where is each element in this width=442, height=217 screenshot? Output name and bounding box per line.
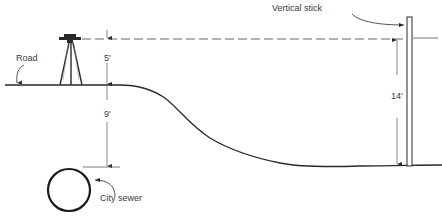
road-arrow-icon [17, 65, 24, 83]
svg-text:City sewer: City sewer [100, 193, 142, 203]
svg-text:14': 14' [391, 91, 403, 101]
road-label: Road [16, 53, 38, 83]
svg-text:5': 5' [104, 53, 111, 63]
survey-diagram: Road 5' 9' City sewer Vertical stick [0, 0, 442, 217]
sewer-depth-dimension: 9' [83, 86, 120, 167]
svg-text:Road: Road [16, 53, 38, 63]
level-instrument-icon [59, 34, 82, 85]
vertical-stick-label: Vertical stick [272, 3, 404, 25]
ground-profile [5, 85, 442, 167]
instrument-height-dimension: 5' [104, 30, 111, 84]
vertical-stick [407, 17, 412, 166]
stick-reading-dimension: 14' [391, 40, 403, 164]
city-sewer-pipe [48, 169, 90, 211]
svg-text:Vertical stick: Vertical stick [272, 3, 323, 13]
city-sewer-label: City sewer [95, 180, 142, 203]
stick-arrow-icon [352, 14, 404, 25]
svg-text:9': 9' [104, 109, 111, 119]
